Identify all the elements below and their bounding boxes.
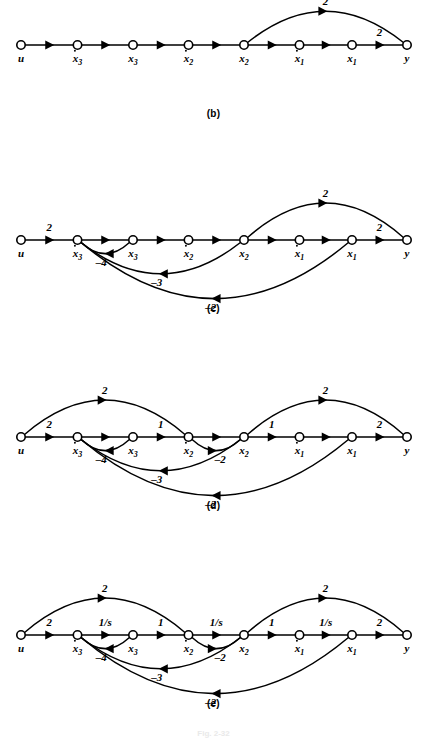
node-dx3[interactable]	[73, 433, 81, 441]
node-dx1[interactable]	[295, 41, 303, 49]
node-label-dot-dx2	[185, 640, 187, 642]
arrowhead-u-to-dx2	[98, 395, 107, 404]
chain-weight-x2-to-dx1: 1	[269, 418, 275, 430]
edge-x2-to-dx3	[81, 638, 240, 669]
node-x1[interactable]	[348, 236, 356, 244]
node-x1[interactable]	[348, 631, 356, 639]
arrowhead-x2-to-y	[318, 593, 327, 602]
arrowhead-chain-x1-to-y	[376, 235, 385, 244]
edge-weight-x2-to-y: 2	[322, 0, 329, 7]
panel-c: 2–4–3–222ux3x3x2x2x1x1y (c)	[0, 135, 427, 325]
node-x3[interactable]	[129, 433, 137, 441]
panel-e-graph: 22–4–2–3–221/s11/s11/s2ux3x3x2x2x1x1y	[0, 528, 427, 698]
panel-d: 22–4–2–3–22112ux3x3x2x2x1x1y (d)	[0, 330, 427, 522]
arrowhead-chain-x1-to-y	[376, 40, 385, 49]
node-label-dx3: x3	[72, 444, 83, 459]
chain-weight-u-to-dx3: 2	[46, 221, 53, 233]
edge-x1-to-dx3	[81, 243, 348, 299]
node-label-y: y	[403, 444, 410, 456]
arrowhead-chain-u-to-dx3	[45, 235, 54, 244]
edge-x1-to-dx3	[81, 440, 348, 496]
node-x2[interactable]	[240, 433, 248, 441]
node-label-x3: x3	[127, 52, 138, 67]
node-label-x2: x2	[238, 444, 249, 459]
node-x3[interactable]	[129, 631, 137, 639]
arrowhead-chain-u-to-dx3	[45, 630, 54, 639]
arrowhead-x2-to-y	[318, 198, 327, 207]
arrowhead-chain-dx1-to-x1	[322, 235, 331, 244]
arrowhead-chain-x3-to-dx2	[157, 432, 166, 441]
node-dx2[interactable]	[184, 41, 192, 49]
panel-e-caption: (e)	[0, 698, 427, 709]
node-u[interactable]	[17, 631, 25, 639]
arrowhead-x2-to-y	[318, 7, 327, 16]
node-x2[interactable]	[240, 236, 248, 244]
node-x3[interactable]	[129, 236, 137, 244]
chain-weight-dx1-to-x1: 1/s	[319, 616, 332, 628]
arrowhead-chain-dx1-to-x1	[322, 40, 331, 49]
node-label-x3: x3	[127, 444, 138, 459]
panel-e: 22–4–2–3–221/s11/s11/s2ux3x3x2x2x1x1y (e…	[0, 528, 427, 720]
node-dx1[interactable]	[295, 631, 303, 639]
arrowhead-chain-dx2-to-x2	[212, 432, 221, 441]
edge-weight-u-to-dx2: 2	[101, 384, 108, 396]
node-label-dot-dx1	[296, 245, 298, 247]
node-x1[interactable]	[348, 41, 356, 49]
arrowhead-chain-dx1-to-x1	[322, 630, 331, 639]
node-dx1[interactable]	[295, 236, 303, 244]
node-y[interactable]	[403, 236, 411, 244]
node-label-u: u	[18, 642, 24, 654]
node-label-dx1: x1	[294, 52, 305, 67]
arrowhead-chain-x2-to-dx1	[268, 235, 277, 244]
node-x3[interactable]	[129, 41, 137, 49]
edge-weight-dx2-to-x2: –2	[214, 651, 227, 663]
node-y[interactable]	[403, 433, 411, 441]
node-x2[interactable]	[240, 631, 248, 639]
node-label-dx2: x2	[183, 247, 194, 262]
edge-weight-x2-to-y: 2	[322, 582, 329, 594]
node-label-x2: x2	[238, 52, 249, 67]
node-u[interactable]	[17, 433, 25, 441]
arrowhead-chain-dx3-to-x3	[101, 40, 110, 49]
panel-c-caption: (c)	[0, 303, 427, 314]
node-label-dx3: x3	[72, 642, 83, 657]
node-dx2[interactable]	[184, 236, 192, 244]
node-label-dx1: x1	[294, 444, 305, 459]
chain-weight-x1-to-y: 2	[376, 418, 383, 430]
arrowhead-chain-u-to-dx3	[45, 432, 54, 441]
chain-weight-x3-to-dx2: 1	[158, 616, 164, 628]
node-dx1[interactable]	[295, 433, 303, 441]
node-y[interactable]	[403, 631, 411, 639]
node-label-dx2: x2	[183, 52, 194, 67]
node-dx3[interactable]	[73, 41, 81, 49]
node-dx3[interactable]	[73, 236, 81, 244]
node-label-x1: x1	[346, 642, 357, 657]
node-label-y: y	[403, 642, 410, 654]
chain-weight-x1-to-y: 2	[376, 616, 383, 628]
node-label-dot-dx3	[74, 640, 76, 642]
arrowhead-x2-to-y	[318, 395, 327, 404]
arrowhead-chain-dx2-to-x2	[212, 40, 221, 49]
node-label-u: u	[18, 52, 24, 64]
panel-b: 22ux3x3x2x2x1x1y (b)	[0, 0, 427, 130]
node-label-dot-dx2	[185, 50, 187, 52]
node-y[interactable]	[403, 41, 411, 49]
chain-weight-u-to-dx3: 2	[46, 616, 53, 628]
arrowhead-chain-x2-to-dx1	[268, 432, 277, 441]
node-u[interactable]	[17, 41, 25, 49]
node-x1[interactable]	[348, 433, 356, 441]
signal-flow-graph-figure: 22ux3x3x2x2x1x1y (b) 2–4–3–222ux3x3x2x2x…	[0, 0, 427, 741]
arrowhead-chain-dx3-to-x3	[101, 630, 110, 639]
node-label-dot-dx1	[296, 442, 298, 444]
node-label-dot-dx1	[296, 640, 298, 642]
node-label-dot-dx3	[74, 50, 76, 52]
node-dx3[interactable]	[73, 631, 81, 639]
arrowhead-chain-x3-to-dx2	[157, 235, 166, 244]
node-x2[interactable]	[240, 41, 248, 49]
node-label-dx1: x1	[294, 247, 305, 262]
node-label-dot-dx3	[74, 245, 76, 247]
node-dx2[interactable]	[184, 433, 192, 441]
node-dx2[interactable]	[184, 631, 192, 639]
node-u[interactable]	[17, 236, 25, 244]
arrowhead-chain-x1-to-y	[376, 630, 385, 639]
